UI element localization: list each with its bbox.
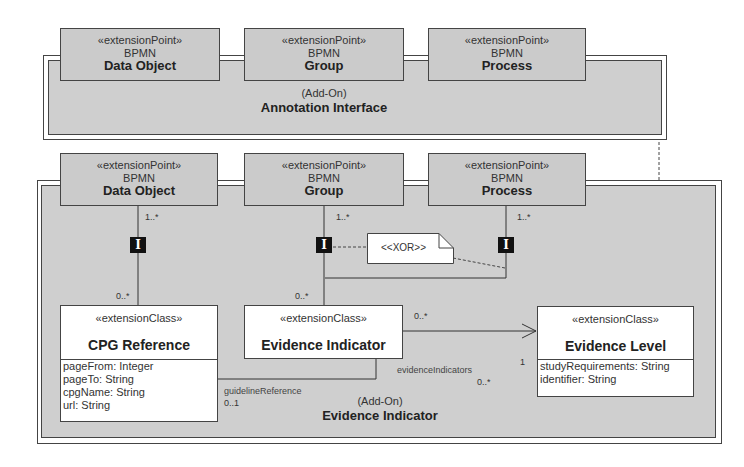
container-title: Evidence Indicator — [300, 408, 460, 425]
multiplicity-data-object-bottom: 0..* — [116, 291, 130, 301]
evidence-indicator-label: (Add-On) Evidence Indicator — [300, 394, 460, 425]
stereotype-label: «extensionClass» — [61, 306, 217, 324]
attribute: identifier: String — [540, 373, 693, 386]
interface-marker-group: I — [316, 237, 332, 253]
class-name: CPG Reference — [61, 337, 217, 353]
class-evidence-level[interactable]: «extensionClass» Evidence Level studyReq… — [537, 306, 694, 397]
interface-marker-process: I — [498, 237, 514, 253]
attribute: studyRequirements: String — [540, 360, 693, 373]
class-name: Evidence Level — [538, 338, 693, 354]
multiplicity-data-object-top: 1..* — [145, 212, 159, 222]
role-evidence-indicators: evidenceIndicators — [397, 366, 472, 376]
class-name: Evidence Indicator — [245, 337, 402, 353]
stereotype-label: «extensionClass» — [245, 306, 402, 324]
addon-label: (Add-On) — [300, 394, 460, 408]
attribute-list: pageFrom: Integer pageTo: String cpgName… — [61, 359, 217, 412]
attribute: cpgName: String — [63, 386, 217, 399]
multiplicity-evidence-indicators: 0..* — [477, 377, 491, 387]
multiplicity-level-target: 1 — [520, 357, 525, 367]
multiplicity-group-bottom: 0..* — [295, 291, 309, 301]
xor-constraint-note[interactable]: <<XOR>> — [367, 233, 454, 264]
multiplicity-group-top: 1..* — [336, 212, 350, 222]
interface-marker-data-object: I — [130, 237, 146, 253]
stereotype-label: «extensionClass» — [538, 307, 693, 325]
class-evidence-indicator[interactable]: «extensionClass» Evidence Indicator — [244, 305, 403, 359]
attribute-list: studyRequirements: String identifier: St… — [538, 359, 693, 386]
attribute: pageFrom: Integer — [63, 360, 217, 373]
attribute: pageTo: String — [63, 373, 217, 386]
role-guideline-reference: guidelineReference — [224, 387, 302, 397]
note-text: <<XOR>> — [367, 242, 440, 253]
multiplicity-process-top: 1..* — [517, 212, 531, 222]
attribute: url: String — [63, 399, 217, 412]
multiplicity-indicator-source: 0..* — [414, 311, 428, 321]
class-cpg-reference[interactable]: «extensionClass» CPG Reference pageFrom:… — [60, 305, 218, 422]
multiplicity-guideline-reference: 0..1 — [224, 398, 239, 408]
